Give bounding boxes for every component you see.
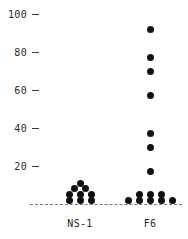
data-point-dot	[147, 130, 154, 137]
data-point-dot	[77, 180, 84, 187]
x-axis-category-label: NS-1	[50, 218, 110, 229]
y-axis-tick-mark	[32, 14, 39, 15]
y-axis-tick-mark	[32, 166, 39, 167]
data-point-dot	[77, 191, 84, 198]
data-point-dot	[147, 191, 154, 198]
y-axis-tick-label: 100	[8, 9, 27, 20]
data-point-dot	[169, 197, 176, 204]
y-axis-tick-mark	[32, 128, 39, 129]
y-axis-tick-label: 80	[14, 47, 27, 58]
data-point-dot	[136, 191, 143, 198]
dot-plot-figure: 10080604020NS-1F6	[0, 0, 188, 239]
data-point-dot	[66, 191, 73, 198]
data-point-dot	[158, 191, 165, 198]
data-point-dot	[147, 26, 154, 33]
data-point-dot	[147, 168, 154, 175]
baseline-dashed-axis	[30, 204, 182, 205]
plot-area: 10080604020NS-1F6	[0, 0, 188, 239]
y-axis-tick: 100	[0, 8, 39, 20]
data-point-dot	[147, 68, 154, 75]
y-axis-tick-label: 20	[14, 161, 27, 172]
data-point-dot	[88, 191, 95, 198]
data-point-dot	[125, 197, 132, 204]
y-axis-tick: 40	[0, 122, 39, 134]
x-axis-category-label: F6	[120, 218, 180, 229]
y-axis-tick-label: 40	[14, 123, 27, 134]
y-axis-tick-mark	[32, 52, 39, 53]
data-point-dot	[147, 144, 154, 151]
y-axis-tick: 80	[0, 46, 39, 58]
y-axis-tick: 20	[0, 160, 39, 172]
data-point-dot	[147, 92, 154, 99]
y-axis-tick-label: 60	[14, 85, 27, 96]
y-axis-tick-mark	[32, 90, 39, 91]
y-axis-tick: 60	[0, 84, 39, 96]
data-point-dot	[147, 54, 154, 61]
